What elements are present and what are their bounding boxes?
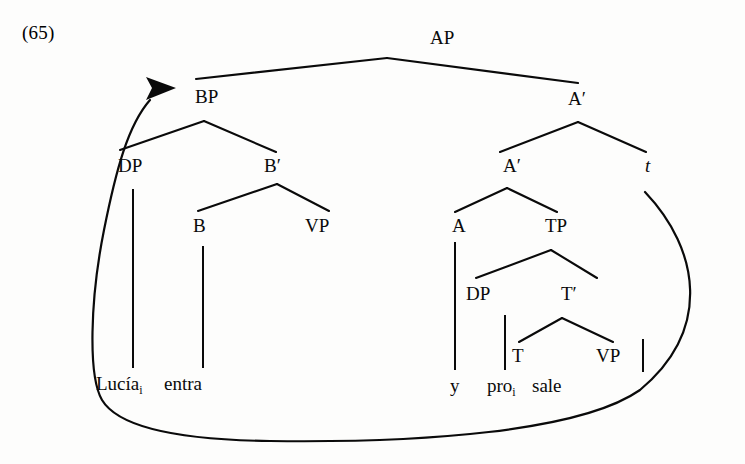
leaf-text: entra bbox=[164, 373, 203, 394]
leaf-text: y bbox=[450, 375, 460, 396]
node-a: A bbox=[452, 215, 466, 236]
leaf-text: sale bbox=[532, 375, 562, 396]
arrow-head-icon bbox=[146, 77, 176, 100]
node-tp: TP bbox=[545, 215, 567, 236]
leaf-sale: sale bbox=[532, 375, 562, 396]
branch-bbar-to-b bbox=[198, 184, 277, 211]
node-tbar: T′ bbox=[561, 283, 577, 304]
branch-bbar-to-vp1 bbox=[277, 184, 329, 211]
leaf-labels: Lucíaientrayproisale bbox=[96, 373, 562, 399]
node-dp1: DP bbox=[118, 155, 142, 176]
node-vp1: VP bbox=[305, 215, 329, 236]
branch-bp-to-bbar bbox=[204, 121, 276, 152]
leaf-text: pro bbox=[487, 375, 512, 396]
figure-canvas: (65) APBPA′DPB′A′tBVPATPDPT′TVP Lucíaien… bbox=[0, 0, 745, 464]
branch-ap-to-bp bbox=[196, 58, 387, 79]
leaf-subscript: i bbox=[139, 383, 143, 397]
branch-tbar-to-t bbox=[519, 318, 562, 342]
leaf-y: y bbox=[450, 375, 460, 396]
leaf-entra: entra bbox=[164, 373, 203, 394]
leaf-text: Lucía bbox=[96, 373, 140, 394]
branch-abar2-to-tp bbox=[507, 188, 557, 212]
branch-abar1-to-trace bbox=[578, 122, 646, 152]
leaf-lucia: Lucíai bbox=[96, 373, 143, 397]
leaf-pro: proi bbox=[487, 375, 516, 399]
node-bp: BP bbox=[195, 86, 218, 107]
branch-abar2-to-a bbox=[455, 188, 507, 212]
branch-ap-to-abar1 bbox=[387, 58, 578, 83]
node-dp2: DP bbox=[466, 283, 490, 304]
node-trace: t bbox=[645, 155, 651, 176]
syntax-tree-diagram: APBPA′DPB′A′tBVPATPDPT′TVP Lucíaientrayp… bbox=[0, 0, 745, 464]
node-bbar: B′ bbox=[264, 155, 281, 176]
node-abar2: A′ bbox=[503, 155, 521, 176]
branch-abar1-to-abar2 bbox=[500, 122, 578, 152]
branch-tp-to-tbar bbox=[551, 250, 597, 278]
node-abar1: A′ bbox=[568, 88, 586, 109]
node-ap: AP bbox=[430, 27, 454, 48]
node-b: B bbox=[193, 215, 206, 236]
leaf-subscript: i bbox=[512, 385, 516, 399]
branch-tbar-to-vp2 bbox=[562, 318, 613, 342]
node-t: T bbox=[512, 345, 524, 366]
node-vp2: VP bbox=[596, 345, 620, 366]
branch-tp-to-dp2 bbox=[476, 250, 551, 278]
